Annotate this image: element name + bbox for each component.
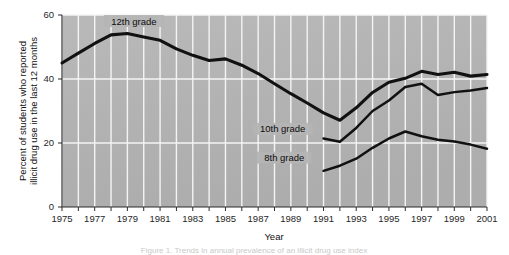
label-10th: 10th grade [260, 123, 305, 134]
x-tick-label: 1995 [378, 213, 399, 224]
x-axis-label: Year [264, 231, 283, 242]
x-tick-label: 1997 [411, 213, 432, 224]
x-tick-label: 1987 [248, 213, 269, 224]
x-tick-label: 1983 [182, 213, 203, 224]
x-tick-label: 2001 [476, 213, 497, 224]
x-tick-label: 1979 [117, 213, 138, 224]
x-axis-ticks: 1975197719791981198319851987198919911993… [51, 207, 497, 224]
x-tick-label: 1981 [150, 213, 171, 224]
y-tick-label: 60 [43, 9, 54, 20]
figure-caption: Figure 1. Trends in annual prevalence of… [141, 246, 367, 255]
y-axis-label-line1: Percent of students who reported [17, 41, 28, 181]
line-chart: 0204060 19751977197919811983198519871989… [0, 0, 509, 255]
y-tick-label: 20 [43, 137, 54, 148]
x-tick-label: 1989 [280, 213, 301, 224]
label-12th: 12th grade [111, 16, 156, 27]
x-tick-label: 1993 [346, 213, 367, 224]
x-tick-label: 1977 [84, 213, 105, 224]
label-8th: 8th grade [264, 152, 304, 163]
x-tick-label: 1991 [313, 213, 334, 224]
x-tick-label: 1999 [444, 213, 465, 224]
y-tick-label: 0 [49, 201, 54, 212]
y-axis-label-line2: illicit drug use in the last 12 months [28, 37, 39, 185]
chart-figure: 0204060 19751977197919811983198519871989… [0, 0, 509, 255]
y-axis-ticks: 0204060 [43, 9, 62, 212]
x-tick-label: 1985 [215, 213, 236, 224]
x-tick-label: 1975 [51, 213, 72, 224]
y-tick-label: 40 [43, 73, 54, 84]
